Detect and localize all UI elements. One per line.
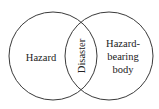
hazard-bearing-body-label-line-1: Hazard- bbox=[106, 38, 140, 49]
venn-diagram: Hazard Disaster Hazard- bearing body bbox=[0, 0, 159, 109]
hazard-label: Hazard bbox=[26, 52, 57, 63]
disaster-label: Disaster bbox=[76, 38, 87, 73]
venn-svg: Hazard Disaster Hazard- bearing body bbox=[0, 0, 159, 109]
hazard-bearing-body-label-line-3: body bbox=[113, 64, 135, 75]
hazard-bearing-body-label-line-2: bearing bbox=[107, 51, 139, 62]
